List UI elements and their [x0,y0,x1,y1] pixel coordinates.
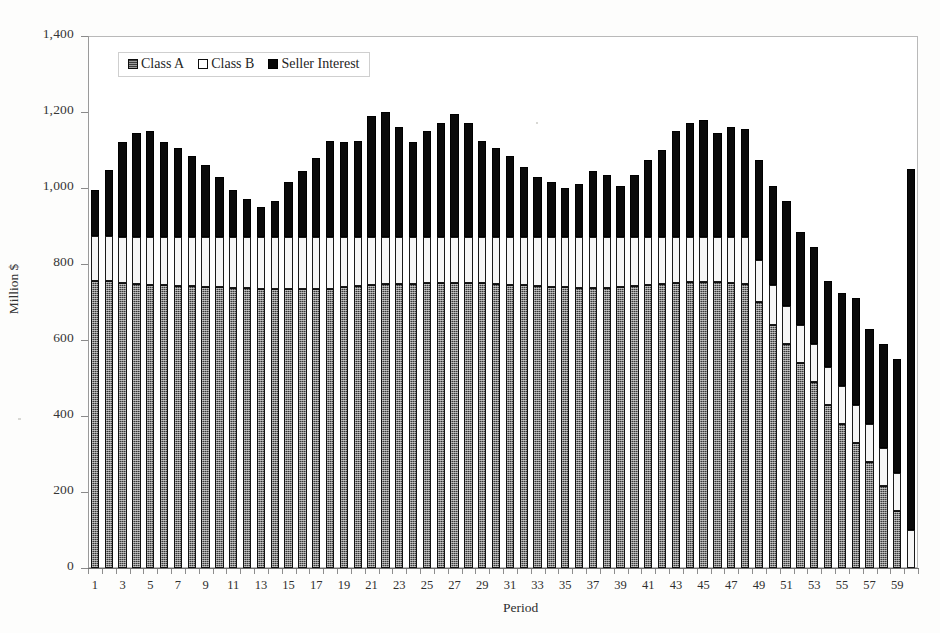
bar-segment-class-b [865,424,873,462]
bar-segment-seller-interest [91,190,99,236]
x-axis-tick-label: 11 [222,578,244,593]
bar-segment-class-b [520,237,528,285]
bar-segment-seller-interest [118,142,126,237]
bar-stack [201,165,209,568]
bar-segment-class-b [146,237,154,285]
bar-segment-class-b [271,237,279,288]
bar-segment-class-a [478,283,486,568]
bar-stack [91,190,99,568]
x-axis-title: Period [503,600,538,616]
x-axis-tick-mark [489,569,490,574]
bar-segment-class-b [91,236,99,281]
bar-segment-class-b [769,285,777,325]
bar-segment-class-a [243,288,251,568]
bar-stack [755,160,763,569]
bar-stack [616,186,624,568]
bar-segment-class-b [326,237,334,288]
y-axis-tick-mark [81,340,88,341]
bar-stack [450,114,458,568]
x-axis-tick-mark [434,569,435,574]
bar-segment-class-a [284,289,292,568]
bar-segment-class-a [796,363,804,568]
bar-segment-seller-interest [215,177,223,238]
bar-stack [506,156,514,568]
x-axis-tick-mark [102,569,103,574]
bar-segment-class-a [326,289,334,568]
bar-segment-seller-interest [312,158,320,238]
bar-segment-class-b [215,237,223,286]
x-axis-tick-label: 25 [416,578,438,593]
bar-segment-class-a [741,284,749,568]
bar-segment-class-b [450,237,458,283]
bar-segment-class-b [409,237,417,283]
x-axis-tick-label: 39 [610,578,632,593]
x-axis-tick-label: 49 [748,578,770,593]
bar-segment-class-a [409,284,417,568]
bar-segment-class-a [810,382,818,568]
x-axis-tick-mark [738,569,739,574]
bar-segment-class-b [727,237,735,283]
x-axis-tick-mark [448,569,449,574]
bar-segment-class-b [561,237,569,286]
bar-segment-class-b [160,237,168,285]
bar-stack [644,160,652,569]
bar-segment-seller-interest [381,112,389,237]
bar-segment-class-b [672,237,680,283]
bar-stack [630,175,638,568]
bar-segment-class-a [367,285,375,568]
bar-segment-seller-interest [893,359,901,473]
x-axis-tick-mark [365,569,366,574]
bar-segment-seller-interest [589,171,597,238]
bar-segment-class-a [865,462,873,568]
bar-segment-seller-interest [520,167,528,237]
legend-item-class-a: Class A [128,56,184,72]
bar-segment-seller-interest [298,171,306,238]
x-axis-tick-label: 43 [665,578,687,593]
bar-segment-class-b [644,237,652,285]
bar-segment-seller-interest [354,141,362,238]
chart-legend: Class A Class B Seller Interest [118,52,370,77]
x-axis-tick-mark [890,569,891,574]
x-axis-tick-mark [517,569,518,574]
bar-segment-class-b [824,367,832,405]
bar-stack [879,344,887,568]
bar-segment-class-b [118,237,126,283]
bar-segment-seller-interest [326,141,334,238]
bar-stack [810,247,818,568]
bar-segment-class-b [284,237,292,288]
bar-stack [575,184,583,568]
bar-stack [713,133,721,568]
bar-segment-class-a [201,287,209,568]
bar-stack [105,170,113,568]
bar-segment-seller-interest [561,188,569,237]
y-axis-tick-mark [81,264,88,265]
bar-segment-class-a [838,424,846,568]
x-axis-tick-mark [199,569,200,574]
bar-stack [893,359,901,568]
x-axis-tick-mark [655,569,656,574]
x-axis-tick-mark [711,569,712,574]
bar-segment-seller-interest [852,298,860,404]
bars-layer [88,36,918,568]
legend-swatch-class-a-icon [128,59,138,69]
y-axis-tick-mark [81,492,88,493]
y-axis-tick-mark [81,416,88,417]
bar-stack [741,129,749,568]
bar-stack [672,131,680,568]
bar-segment-class-a [699,282,707,568]
y-axis-tick-mark [81,188,88,189]
x-axis-tick-mark [392,569,393,574]
x-axis-tick-label: 41 [637,578,659,593]
legend-item-seller-interest: Seller Interest [268,56,359,72]
bar-segment-class-b [437,237,445,283]
scan-speck [18,418,21,420]
bar-segment-class-b [852,405,860,443]
bar-segment-class-a [644,285,652,568]
x-axis-tick-mark [185,569,186,574]
bar-stack [520,167,528,568]
bar-segment-class-a [91,281,99,568]
x-axis-tick-mark [641,569,642,574]
bar-segment-seller-interest [174,148,182,237]
x-axis-tick-mark [794,569,795,574]
bar-segment-seller-interest [367,116,375,238]
